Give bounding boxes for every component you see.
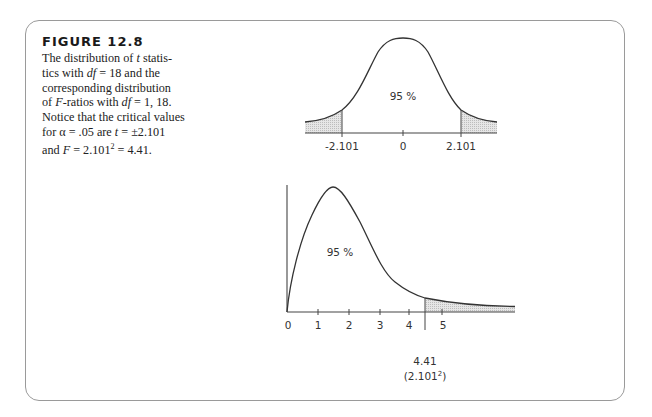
t-center-pct: 95 % [390, 90, 417, 102]
f-tick-label-0: 0 [285, 319, 292, 331]
f-critical-value-label: 4.41 [413, 355, 436, 367]
f-tick-label-1: 1 [315, 319, 322, 331]
t-label-neg: -2.101 [325, 140, 359, 152]
f-tick-label-3: 3 [377, 319, 384, 331]
f-distribution-chart: 95 % 0 1 2 3 4 5 4.41 (2.1012) [285, 185, 515, 382]
f-tick-label-5: 5 [440, 319, 447, 331]
t-label-zero: 0 [400, 140, 407, 152]
f-critical-sublabel: (2.1012) [404, 370, 447, 382]
t-distribution-chart: 95 % -2.101 0 2.101 [305, 38, 497, 152]
f-curve [287, 187, 515, 312]
t-curve [305, 38, 497, 122]
f-tick-label-4: 4 [406, 319, 413, 331]
f-tick-label-2: 2 [346, 319, 353, 331]
t-label-pos: 2.101 [446, 140, 476, 152]
f-center-pct: 95 % [327, 246, 354, 258]
figure-charts: 95 % -2.101 0 2.101 95 % 0 1 2 3 4 5 4.4… [0, 0, 652, 417]
